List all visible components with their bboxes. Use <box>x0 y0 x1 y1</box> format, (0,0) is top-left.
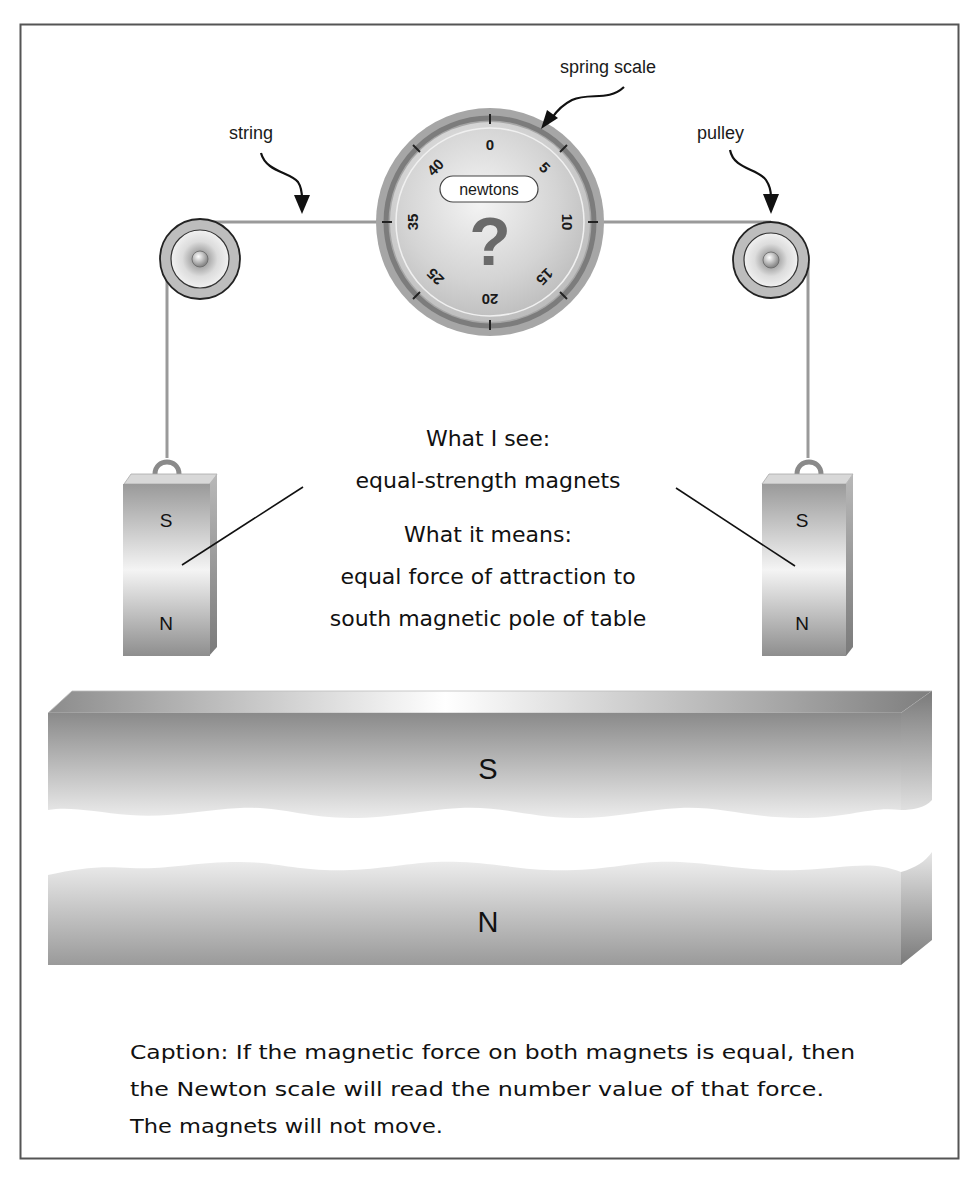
unknown-reading: ? <box>469 203 511 279</box>
dial-tick-label: 20 <box>482 291 499 308</box>
pole-label-south: S <box>160 510 173 531</box>
diagram-canvas: 0 5 10 15 20 25 35 40 newtons ? spring s… <box>0 0 977 1178</box>
caption-line-1: Caption: If the magnetic force on both m… <box>130 1040 855 1064</box>
spring-scale-dial: 0 5 10 15 20 25 35 40 newtons ? <box>376 108 604 336</box>
pole-label-north: N <box>795 613 809 634</box>
means-heading: What it means: <box>404 522 572 547</box>
see-text: equal-strength magnets <box>355 468 620 493</box>
string-label: string <box>229 123 273 143</box>
table-pole-label-south: S <box>478 753 497 785</box>
spring-scale-arrow-icon <box>552 87 624 118</box>
pulley-label: pulley <box>697 123 744 143</box>
arrowhead-icon <box>763 194 779 214</box>
table-pole-label-north: N <box>478 906 499 938</box>
means-line-1: equal force of attraction to <box>340 564 635 589</box>
unit-label: newtons <box>459 181 519 198</box>
pole-label-south: S <box>796 510 809 531</box>
caption: Caption: If the magnetic force on both m… <box>129 1040 855 1138</box>
pulley-arrow-icon <box>730 150 771 197</box>
table-magnet: S N <box>48 691 932 965</box>
annotation-block: What I see: equal-strength magnets What … <box>330 426 647 631</box>
means-line-2: south magnetic pole of table <box>330 606 647 631</box>
spring-scale-label: spring scale <box>560 57 656 77</box>
caption-line-2: the Newton scale will read the number va… <box>130 1077 824 1101</box>
pole-label-north: N <box>159 613 173 634</box>
left-pulley <box>160 219 240 299</box>
right-pulley <box>733 222 809 298</box>
caption-line-3: The magnets will not move. <box>129 1114 443 1138</box>
dial-tick-label: 10 <box>559 214 576 231</box>
string-arrow-icon <box>261 153 302 199</box>
dial-tick-label: 0 <box>486 136 494 153</box>
right-hanging-magnet: S N <box>762 462 853 656</box>
see-heading: What I see: <box>426 426 550 451</box>
dial-tick-label: 35 <box>404 214 421 231</box>
left-hanging-magnet: S N <box>123 462 217 656</box>
arrowhead-icon <box>294 195 310 214</box>
